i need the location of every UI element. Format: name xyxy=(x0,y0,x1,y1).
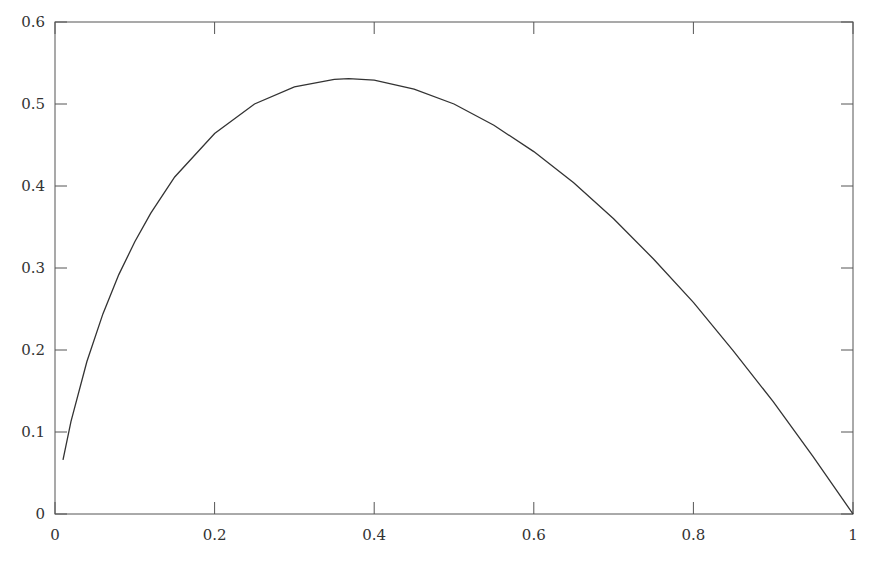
x-tick-label: 1 xyxy=(848,526,858,544)
y-tick-label: 0.3 xyxy=(21,259,45,277)
x-tick-label: 0.2 xyxy=(203,526,227,544)
line-chart: 00.20.40.60.81 00.10.20.30.40.50.6 xyxy=(0,0,870,572)
y-tick-label: 0.6 xyxy=(21,13,45,31)
x-tick-label: 0.6 xyxy=(522,526,546,544)
y-tick-label: 0.5 xyxy=(21,95,45,113)
y-tick-label: 0.1 xyxy=(21,423,45,441)
data-line xyxy=(63,79,853,514)
axes-frame xyxy=(55,22,853,514)
x-tick-label: 0.8 xyxy=(681,526,705,544)
x-axis: 00.20.40.60.81 xyxy=(50,22,858,544)
x-tick-label: 0.4 xyxy=(362,526,386,544)
y-tick-label: 0.2 xyxy=(21,341,45,359)
plot-area xyxy=(55,22,853,514)
y-tick-label: 0 xyxy=(35,505,45,523)
x-tick-label: 0 xyxy=(50,526,60,544)
y-tick-label: 0.4 xyxy=(21,177,45,195)
y-axis: 00.10.20.30.40.50.6 xyxy=(21,13,853,523)
